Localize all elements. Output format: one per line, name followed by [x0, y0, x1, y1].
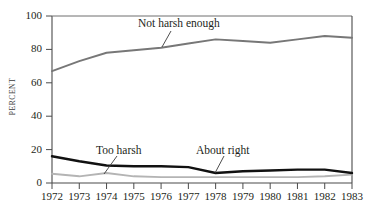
annotation-not-harsh-enough: Not harsh enough — [138, 17, 220, 29]
y-tick-label-60: 60 — [10, 77, 42, 88]
line-chart: PERCENT 100 80 60 40 20 0 1972 1973 1974… — [0, 0, 379, 208]
annotation-about-right: About right — [196, 144, 249, 156]
x-tick-label-1983: 1983 — [336, 191, 368, 202]
y-tick-label-0: 0 — [10, 177, 42, 188]
y-tick-label-20: 20 — [10, 144, 42, 155]
leader-not-harsh-enough — [162, 31, 171, 47]
series-line-too-harsh — [52, 173, 352, 177]
series-line-about-right — [52, 156, 352, 173]
y-axis-ticks — [46, 16, 52, 183]
y-tick-label-100: 100 — [10, 10, 42, 21]
leader-about-right — [215, 156, 224, 173]
y-tick-label-40: 40 — [10, 110, 42, 121]
y-tick-label-80: 80 — [10, 43, 42, 54]
annotation-too-harsh: Too harsh — [96, 144, 142, 156]
chart-canvas — [0, 0, 379, 208]
x-axis-ticks — [52, 183, 352, 189]
series-line-not-harsh-enough — [52, 36, 352, 71]
